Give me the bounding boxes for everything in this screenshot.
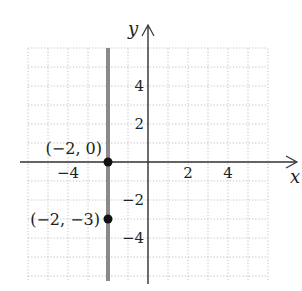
x-axis-label: x <box>290 166 300 187</box>
point-label: (−2, 0) <box>46 139 102 158</box>
point-label: (−2, −3) <box>30 210 100 229</box>
y-tick-label: 2 <box>134 115 144 133</box>
x-tick-label: −4 <box>57 164 79 182</box>
y-tick-label: −2 <box>122 191 144 209</box>
coordinate-plane: x y −42442−2−4 (−2, 0)(−2, −3) <box>0 0 302 291</box>
points: (−2, 0)(−2, −3) <box>30 139 112 229</box>
y-tick-label: −4 <box>122 229 144 247</box>
y-axis-label: y <box>127 18 139 39</box>
point-marker <box>104 215 113 224</box>
x-tick-label: 2 <box>183 164 193 182</box>
x-tick-label: 4 <box>223 164 233 182</box>
point-marker <box>104 158 113 167</box>
y-tick-label: 4 <box>134 77 144 95</box>
